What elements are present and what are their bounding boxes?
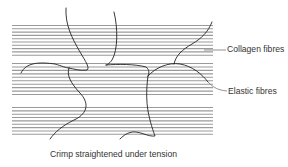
collagen-fibres-label: Collagen fibres (227, 45, 284, 54)
elastic-leader-line (208, 82, 227, 91)
collagen-fibre-lines (12, 26, 213, 135)
elastic-fibre-strand (148, 64, 208, 82)
collagen-elastic-diagram (0, 0, 288, 167)
elastic-fibres-label: Elastic fibres (228, 87, 277, 96)
elastic-fibre-strand (21, 63, 69, 73)
caption: Crimp straightened under tension (50, 150, 177, 159)
elastic-fibre-strand (50, 68, 86, 139)
